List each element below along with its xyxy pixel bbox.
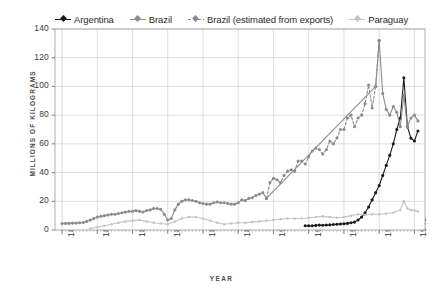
series-point-argentina: [321, 224, 324, 227]
series-point-paraguay: [110, 223, 113, 226]
chart-plot-area: [0, 0, 443, 296]
series-point-brazil: [117, 212, 120, 215]
series-point-brazil-estimated-from-exports: [272, 177, 275, 180]
series-point-paraguay: [174, 220, 177, 223]
chart-container: ArgentinaBrazilBrazil (estimated from ex…: [0, 0, 443, 296]
series-point-brazil: [395, 111, 398, 114]
series-point-paraguay: [251, 221, 254, 224]
series-point-paraguay: [279, 218, 282, 221]
series-point-brazil: [71, 222, 74, 225]
series-point-brazil: [258, 193, 261, 196]
series-point-brazil: [110, 213, 113, 216]
series-point-brazil-estimated-from-exports: [342, 128, 345, 131]
series-point-brazil: [163, 213, 166, 216]
series-point-brazil-estimated-from-exports: [325, 148, 328, 151]
series-point-brazil: [64, 222, 67, 225]
series-point-argentina: [335, 223, 338, 226]
series-point-brazil: [180, 200, 183, 203]
series-point-brazil: [402, 93, 405, 96]
series-point-brazil-estimated-from-exports: [357, 116, 360, 119]
series-point-brazil-estimated-from-exports: [353, 125, 356, 128]
series-point-paraguay: [293, 217, 296, 220]
series-point-brazil: [85, 220, 88, 223]
series-point-brazil: [149, 208, 152, 211]
series-point-brazil: [145, 209, 148, 212]
series-point-paraguay: [117, 222, 120, 225]
series-point-paraguay: [329, 216, 332, 219]
series-point-brazil: [409, 116, 412, 119]
series-point-brazil: [78, 221, 81, 224]
series-point-paraguay: [195, 216, 198, 219]
series-point-paraguay: [188, 216, 191, 219]
series-point-brazil: [198, 201, 201, 204]
series-point-paraguay: [322, 215, 325, 218]
series-point-brazil-estimated-from-exports: [318, 148, 321, 151]
series-point-paraguay: [378, 213, 381, 216]
series-point-brazil: [226, 202, 229, 205]
series-point-argentina: [367, 205, 370, 208]
series-point-brazil: [230, 203, 233, 206]
series-point-brazil: [205, 203, 208, 206]
series-point-brazil-estimated-from-exports: [286, 170, 289, 173]
series-point-argentina: [416, 129, 419, 132]
series-point-brazil: [156, 207, 159, 210]
series-point-paraguay: [223, 223, 226, 226]
series-point-brazil: [120, 211, 123, 214]
series-point-paraguay: [103, 224, 106, 227]
series-point-brazil: [254, 194, 257, 197]
series-point-brazil-estimated-from-exports: [346, 116, 349, 119]
series-point-paraguay: [167, 223, 170, 226]
series-point-brazil-estimated-from-exports: [268, 181, 271, 184]
series-point-brazil: [124, 211, 127, 214]
series-point-brazil-estimated-from-exports: [332, 142, 335, 145]
series-point-paraguay: [343, 216, 346, 219]
series-point-brazil-estimated-from-exports: [297, 160, 300, 163]
series-point-paraguay: [244, 222, 247, 225]
series-point-brazil: [99, 215, 102, 218]
series-point-paraguay: [181, 217, 184, 220]
series-point-brazil: [416, 119, 419, 122]
series-point-brazil-estimated-from-exports: [265, 197, 268, 200]
series-point-argentina: [381, 174, 384, 177]
series-point-brazil: [138, 210, 141, 213]
series-point-argentina: [402, 76, 405, 79]
series-point-paraguay: [403, 200, 406, 203]
series-point-paraguay: [300, 217, 303, 220]
series-point-brazil: [152, 207, 155, 210]
series-point-brazil: [173, 208, 176, 211]
series-point-paraguay: [399, 209, 402, 212]
series-point-brazil: [92, 217, 95, 220]
series-point-brazil: [82, 221, 85, 224]
series-point-brazil-estimated-from-exports: [290, 168, 293, 171]
series-point-argentina: [360, 216, 363, 219]
series-point-brazil-estimated-from-exports: [311, 149, 314, 152]
series-point-brazil-estimated-from-exports: [328, 139, 331, 142]
series-point-brazil-estimated-from-exports: [304, 162, 307, 165]
series-point-argentina: [318, 224, 321, 227]
series-point-brazil: [177, 203, 180, 206]
series-point-paraguay: [307, 217, 310, 220]
series-point-paraguay: [124, 220, 127, 223]
series-point-brazil-estimated-from-exports: [367, 83, 370, 86]
series-point-brazil: [240, 198, 243, 201]
series-point-argentina: [307, 224, 310, 227]
series-point-argentina: [346, 222, 349, 225]
series-point-brazil: [61, 222, 64, 225]
series-point-brazil: [237, 201, 240, 204]
series-point-brazil: [75, 222, 78, 225]
series-point-brazil: [381, 92, 384, 95]
series-point-brazil-estimated-from-exports: [360, 114, 363, 117]
series-point-argentina: [339, 222, 342, 225]
series-point-paraguay: [413, 209, 416, 212]
series-point-brazil: [261, 191, 264, 194]
series-point-argentina: [392, 142, 395, 145]
series-point-paraguay: [258, 220, 261, 223]
series-point-argentina: [328, 223, 331, 226]
series-point-brazil: [413, 114, 416, 117]
series-point-paraguay: [89, 227, 92, 230]
series-point-brazil: [244, 199, 247, 202]
series-point-brazil: [142, 211, 145, 214]
series-point-paraguay: [371, 213, 374, 216]
series-point-brazil: [385, 108, 388, 111]
series-point-paraguay: [406, 207, 409, 210]
